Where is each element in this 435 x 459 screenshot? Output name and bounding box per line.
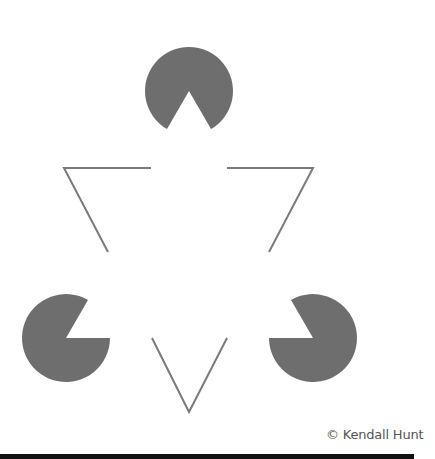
pacman-top [145,47,233,129]
pacman-bottom-left [22,294,110,382]
bottom-border-bar [0,454,414,459]
line-top-left-corner [64,168,151,252]
kanizsa-triangle-figure [0,0,435,459]
line-bottom-corner [152,338,227,412]
line-top-right-corner [227,168,313,252]
copyright-credit: © Kendall Hunt [326,427,423,442]
pacman-bottom-right [269,294,357,382]
